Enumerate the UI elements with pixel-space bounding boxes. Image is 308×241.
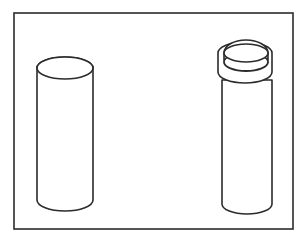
left-cylinder bbox=[37, 57, 93, 211]
drawing-canvas bbox=[0, 0, 308, 241]
right-cylinder bbox=[218, 40, 272, 214]
right-cylinder-cap-top-ellipse bbox=[224, 44, 268, 62]
right-cylinder-body bbox=[222, 80, 272, 214]
left-cylinder-top-ellipse bbox=[37, 57, 93, 79]
two-cylinders-figure bbox=[0, 0, 308, 241]
left-cylinder-body bbox=[37, 57, 93, 211]
